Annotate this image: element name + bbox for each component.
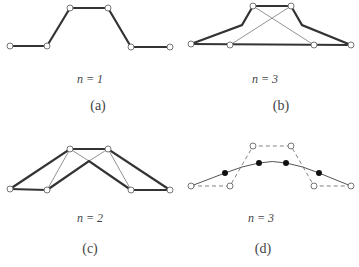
- panel-a-polygon: [7, 5, 173, 50]
- panel-b-polygon: [188, 3, 354, 48]
- panel-c-polygon: [7, 146, 173, 193]
- panel-b-label: n = 3: [252, 72, 278, 87]
- panel-c-caption: (c): [82, 241, 98, 257]
- panel-d-label: n = 3: [248, 211, 274, 226]
- panel-d-caption: (d): [255, 241, 271, 257]
- panel-a-label: n = 1: [77, 72, 103, 87]
- diagram-canvas: [0, 0, 359, 267]
- panel-d-curve: [188, 143, 354, 189]
- panel-a-caption: (a): [90, 98, 106, 114]
- panel-b-caption: (b): [273, 98, 289, 114]
- panel-c-label: n = 2: [77, 211, 103, 226]
